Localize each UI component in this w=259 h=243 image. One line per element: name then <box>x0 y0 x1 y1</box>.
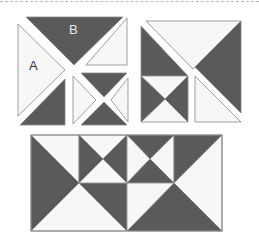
label-b: B <box>69 22 78 37</box>
quilt-diagram <box>0 0 259 243</box>
label-a: A <box>29 58 38 73</box>
